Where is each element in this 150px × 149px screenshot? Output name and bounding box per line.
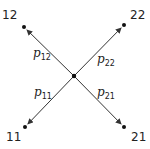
center-node xyxy=(72,74,76,78)
transition-diagram: p12p22p11p21 12221121 xyxy=(0,0,150,149)
node-label-11: 11 xyxy=(6,130,21,144)
edge-label-p12: p12 xyxy=(33,46,51,62)
edge-label-p21: p21 xyxy=(97,85,115,101)
node-21 xyxy=(122,125,126,129)
node-12 xyxy=(22,25,26,29)
edge-label-p11: p11 xyxy=(34,85,52,101)
edge-label-p22: p22 xyxy=(97,52,115,68)
node-label-12: 12 xyxy=(2,8,17,22)
node-11 xyxy=(23,125,27,129)
node-label-21: 21 xyxy=(131,130,146,144)
node-label-22: 22 xyxy=(130,8,145,22)
node-22 xyxy=(122,23,126,27)
